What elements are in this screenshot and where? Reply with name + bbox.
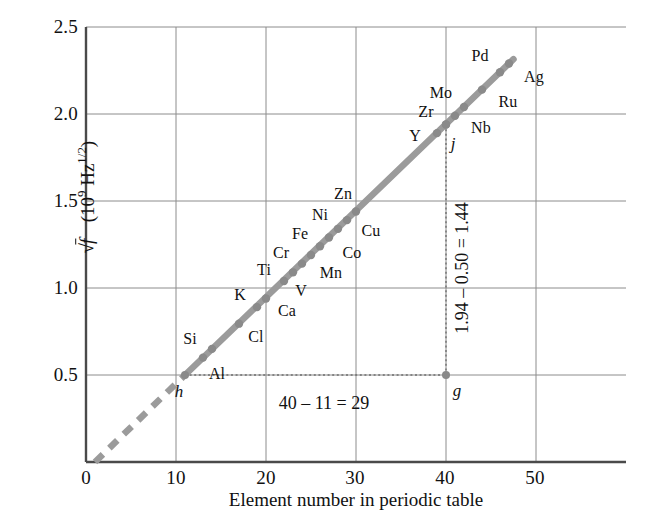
element-label-pd: Pd bbox=[471, 47, 488, 65]
element-label-v: V bbox=[295, 282, 307, 300]
data-point-ni bbox=[334, 225, 342, 233]
y-tick-label-2-5: 2.5 bbox=[18, 16, 78, 38]
y-tick-label-1-0: 1.0 bbox=[18, 277, 78, 299]
data-point-fe bbox=[316, 242, 324, 250]
element-label-ag: Ag bbox=[524, 68, 544, 86]
reference-label-g: g bbox=[453, 381, 462, 401]
element-label-mn: Mn bbox=[320, 264, 342, 282]
element-label-ni: Ni bbox=[312, 206, 328, 224]
x-tick-label-0: 0 bbox=[81, 467, 91, 489]
element-label-cl: Cl bbox=[248, 328, 263, 346]
y-axis-title: √f (109 Hz1/2) bbox=[74, 141, 98, 254]
element-label-y: Y bbox=[409, 127, 421, 145]
data-point-al bbox=[199, 353, 207, 361]
data-point-nb bbox=[451, 112, 459, 120]
data-point-k bbox=[253, 303, 261, 311]
element-label-ti: Ti bbox=[257, 261, 271, 279]
element-label-cr: Cr bbox=[273, 244, 289, 262]
data-point-si bbox=[208, 345, 216, 353]
sqrt-symbol: √f bbox=[77, 239, 99, 254]
element-label-cu: Cu bbox=[362, 222, 381, 240]
reference-label-j: j bbox=[451, 134, 456, 154]
data-point-ru bbox=[478, 85, 486, 93]
y-units-open: (10 bbox=[77, 197, 98, 222]
data-point-co bbox=[325, 233, 333, 241]
x-tick-label-50: 50 bbox=[525, 467, 544, 489]
data-point-cr bbox=[298, 259, 306, 267]
y-units-exponent-9: 9 bbox=[74, 191, 89, 197]
element-label-co: Co bbox=[343, 244, 362, 262]
element-label-ru: Ru bbox=[499, 93, 518, 111]
data-point-cu bbox=[343, 216, 351, 224]
y-units-hz: Hz bbox=[77, 164, 98, 191]
data-point-mn bbox=[307, 251, 315, 259]
moseley-plot-figure: 2.5 2.0 1.5 1.0 0.5 0 10 20 30 40 50 Ele… bbox=[0, 0, 645, 523]
x-tick-label-30: 30 bbox=[345, 467, 364, 489]
data-point-ca bbox=[262, 294, 270, 302]
annotation-run-delta-z: 40 – 11 = 29 bbox=[279, 393, 369, 414]
y-tick-label-2-0: 2.0 bbox=[18, 103, 78, 125]
data-point-y bbox=[433, 129, 441, 137]
element-label-al: Al bbox=[209, 365, 225, 383]
reference-label-h: h bbox=[175, 382, 184, 402]
reference-point-g bbox=[442, 371, 450, 379]
extrapolation-dashed-line bbox=[95, 375, 185, 462]
reference-point-h bbox=[181, 371, 189, 379]
reference-point-j bbox=[442, 120, 450, 128]
x-tick-label-20: 20 bbox=[256, 467, 275, 489]
element-label-fe: Fe bbox=[292, 225, 308, 243]
sqrt-radical: √ bbox=[77, 243, 98, 253]
chart-plot-area bbox=[0, 0, 645, 523]
element-label-mo: Mo bbox=[430, 84, 452, 102]
y-tick-label-0-5: 0.5 bbox=[18, 364, 78, 386]
element-label-nb: Nb bbox=[471, 119, 491, 137]
element-label-k: K bbox=[234, 286, 246, 304]
data-point-ag bbox=[505, 59, 513, 67]
data-point-mo bbox=[460, 103, 468, 111]
data-point-zn bbox=[352, 207, 360, 215]
x-axis-title: Element number in periodic table bbox=[229, 489, 483, 511]
data-point-pd bbox=[496, 68, 504, 76]
y-units-close: ) bbox=[77, 141, 98, 147]
data-point-v bbox=[289, 268, 297, 276]
x-tick-label-40: 40 bbox=[435, 467, 454, 489]
x-tick-label-10: 10 bbox=[166, 467, 185, 489]
data-point-ti bbox=[280, 277, 288, 285]
sqrt-variable-f: f bbox=[76, 239, 98, 244]
annotation-rise-delta-sqrt-f: 1.94 – 0.50 = 1.44 bbox=[452, 202, 473, 334]
data-point-cl bbox=[235, 319, 243, 327]
y-tick-label-1-5: 1.5 bbox=[18, 190, 78, 212]
element-label-ca: Ca bbox=[278, 302, 296, 320]
element-label-zr: Zr bbox=[418, 103, 433, 121]
y-units-exponent-half: 1/2 bbox=[74, 147, 89, 164]
element-label-si: Si bbox=[183, 330, 197, 348]
element-label-zn: Zn bbox=[334, 185, 352, 203]
